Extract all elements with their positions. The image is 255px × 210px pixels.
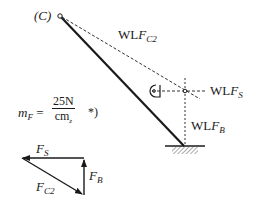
force-diagram: (C) WLFC2 WLFS WLFB mF = 25N cmz *) FS F… [0,0,255,210]
ground-hatch [172,147,198,154]
label-fb: FB [89,169,103,185]
label-wl-fc2: WLFC2 [118,28,157,44]
point-c-node [58,14,62,18]
intersection-node [183,89,187,93]
point-c-label: (C) [34,9,51,22]
scale-numerator: 25N [52,95,75,109]
label-wl-fb: WLFB [191,119,225,135]
scale-lhs: mF = [18,106,44,122]
label-wl-fs: WLFS [210,84,243,100]
scale-footnote: *) [88,106,98,118]
scale-denominator: cmz [52,109,75,125]
label-fc2: FC2 [36,180,55,196]
scale-fraction: 25N cmz [52,95,75,125]
label-fs: FS [36,142,49,158]
